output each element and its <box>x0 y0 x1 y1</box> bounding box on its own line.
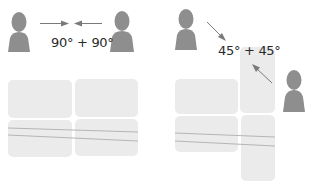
arrow-diagonal-down-right-icon <box>207 22 226 41</box>
right-panel-graphics <box>0 0 313 192</box>
angle-label-right: 45° + 45° <box>218 43 281 58</box>
arrow-diagonal-up-left-icon <box>252 64 272 83</box>
person-icon <box>175 9 197 50</box>
person-icon <box>283 70 305 112</box>
